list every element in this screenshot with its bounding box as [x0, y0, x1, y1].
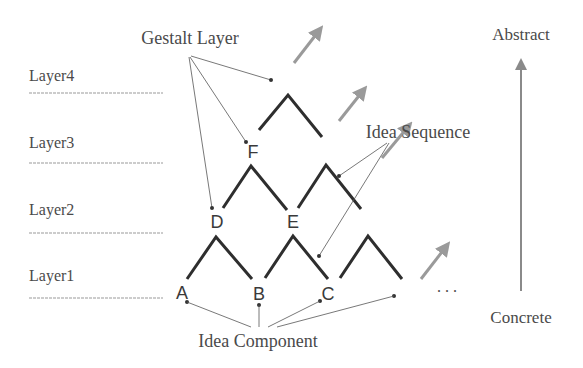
pointer-to-a	[187, 302, 251, 327]
pointer-to-d	[189, 57, 212, 208]
nodes: F D E A B C	[176, 142, 335, 304]
layer4-label: Layer4	[29, 67, 74, 85]
pointer-to-layer2-sequence	[319, 143, 389, 256]
idea-component-pointers	[185, 294, 396, 327]
node-c: C	[322, 284, 335, 304]
idea-sequence-pointers	[317, 143, 389, 258]
node-b: B	[253, 284, 265, 304]
sequence-arrow-layer3	[339, 92, 362, 121]
layer-labels: Layer4 Layer3 Layer2 Layer1	[29, 67, 163, 298]
node-f: F	[248, 142, 259, 162]
layer3-triangle-left	[223, 166, 287, 210]
sequence-arrow-layer1	[421, 248, 445, 279]
pointer-to-c	[268, 301, 320, 327]
layer3-triangle-right	[298, 165, 361, 209]
layer4-node-dot	[269, 78, 273, 82]
layer2-triangle-left	[187, 237, 252, 279]
layer4-triangle	[259, 95, 322, 137]
layer3-sequence-dot	[337, 174, 341, 178]
pointer-to-layer3-sequence	[339, 143, 387, 176]
continuation-ellipsis: . . .	[437, 278, 457, 295]
layer1-label: Layer1	[29, 267, 74, 285]
gestalt-layer-diagram: Layer4 Layer3 Layer2 Layer1 Gestalt Laye…	[0, 0, 583, 368]
layer2-triangle-right	[340, 236, 402, 279]
node-e: E	[287, 212, 299, 232]
idea-component-label: Idea Component	[198, 331, 317, 351]
layer2-sequence-dot	[317, 254, 321, 258]
sequence-arrow-layer4	[294, 32, 318, 63]
gestalt-layer-label: Gestalt Layer	[141, 28, 238, 48]
layer2-label: Layer2	[29, 201, 74, 219]
d-node-dot	[210, 206, 214, 210]
concrete-label: Concrete	[490, 308, 551, 327]
node-d: D	[211, 212, 224, 232]
gestalt-layer-pointers	[189, 56, 273, 210]
node-a: A	[176, 283, 188, 303]
abstract-label: Abstract	[492, 25, 550, 44]
pointer-to-next-component	[277, 296, 394, 327]
idea-sequence-label: Idea Sequence	[366, 122, 470, 142]
layer3-label: Layer3	[29, 134, 74, 152]
